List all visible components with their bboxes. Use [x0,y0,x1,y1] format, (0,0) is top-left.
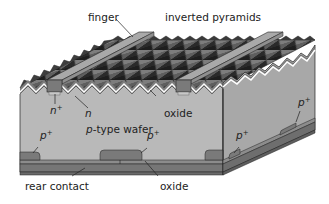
label-n: n [85,107,92,119]
label-oxide-rear: oxide [160,180,188,192]
label-p-type-wafer: p-type wafer [85,123,153,135]
label-inverted-pyramids: inverted pyramids [165,11,261,23]
solar-cell-diagram: finger inverted pyramids n+ n oxide p-ty… [0,0,329,204]
label-oxide-front: oxide [164,107,192,119]
p-plus-region-c [205,150,223,160]
diagram-canvas: finger inverted pyramids n+ n oxide p-ty… [0,0,329,204]
p-plus-region-a [20,152,40,160]
label-rear-contact: rear contact [25,180,89,192]
label-finger: finger [88,11,119,23]
p-plus-region-b [100,150,142,160]
